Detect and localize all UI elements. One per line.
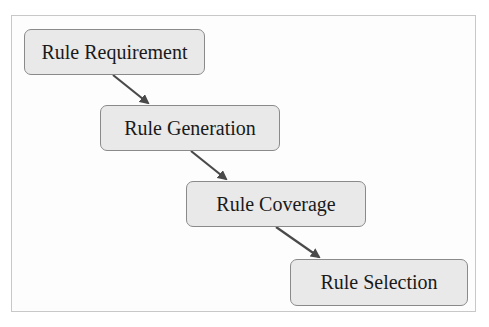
- node-label: Rule Selection: [320, 271, 437, 294]
- node-label: Rule Requirement: [41, 41, 187, 64]
- node-label: Rule Generation: [124, 117, 256, 140]
- node-rule-requirement: Rule Requirement: [24, 29, 205, 75]
- node-rule-selection: Rule Selection: [290, 259, 468, 306]
- node-rule-generation: Rule Generation: [100, 105, 280, 151]
- diagram-canvas: Rule Requirement Rule Generation Rule Co…: [0, 0, 489, 327]
- node-rule-coverage: Rule Coverage: [186, 181, 366, 227]
- node-label: Rule Coverage: [216, 193, 335, 216]
